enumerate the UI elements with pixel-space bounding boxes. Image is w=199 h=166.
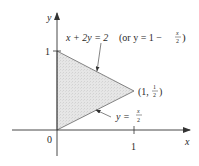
vertex-open: (1,	[138, 86, 149, 98]
lower-eq-prefix: y =	[115, 111, 130, 122]
x-axis-label: x	[184, 136, 190, 147]
region-diagram: y x 0 1 1 x + 2y = 2 (or y = 1 − x 2 ) (…	[0, 0, 199, 166]
y-axis-label: y	[46, 12, 52, 23]
lower-callout-arrow	[96, 110, 111, 117]
upper-eq-close: )	[182, 31, 186, 44]
upper-eq-alt: (or y = 1 −	[119, 32, 162, 44]
vertex-frac-num: 1	[153, 84, 156, 90]
vertex-close: )	[159, 86, 162, 98]
upper-frac-den: 2	[176, 38, 179, 44]
lower-line-annotation: y = x 2	[96, 108, 142, 123]
upper-frac-num: x	[175, 30, 179, 36]
vertex-frac-den: 2	[153, 92, 156, 98]
y-tick-label: 1	[45, 46, 50, 57]
upper-eq-main: x + 2y = 2	[65, 32, 108, 43]
upper-callout-arrow	[97, 43, 101, 71]
vertex-label: (1, 1 2 )	[138, 84, 162, 98]
lower-frac-den: 2	[137, 117, 140, 123]
x-tick-label: 1	[131, 141, 136, 152]
origin-label: 0	[47, 134, 52, 145]
lower-frac-num: x	[136, 108, 140, 114]
